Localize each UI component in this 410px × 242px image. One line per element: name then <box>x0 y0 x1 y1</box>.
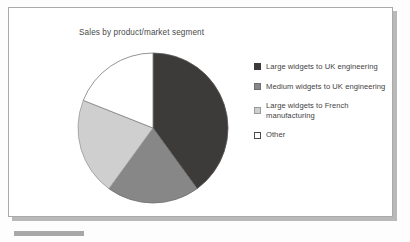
legend-item[interactable]: Other <box>254 130 394 140</box>
legend-swatch-other <box>254 132 261 139</box>
legend-swatch-medium-widgets-uk <box>254 83 261 90</box>
legend: Large widgets to UK engineering Medium w… <box>254 62 394 140</box>
scanned-page: Sales by product/market segment Large wi… <box>0 0 410 242</box>
legend-item-label: Other <box>266 130 285 140</box>
legend-swatch-large-widgets-uk <box>254 63 261 70</box>
legend-item-label: Medium widgets to UK engineering <box>266 82 385 92</box>
legend-item[interactable]: Medium widgets to UK engineering <box>254 82 394 92</box>
chart-frame: Sales by product/market segment Large wi… <box>8 7 393 217</box>
page-bottom-artifact-bar <box>14 231 84 236</box>
pie-chart-svg <box>77 52 229 204</box>
pie-chart <box>77 52 229 204</box>
legend-swatch-large-widgets-french <box>254 107 261 114</box>
legend-item-label: Large widgets to UK engineering <box>266 62 378 72</box>
legend-item[interactable]: Large widgets to French manufacturing <box>254 101 394 120</box>
legend-item-label: Large widgets to French manufacturing <box>266 101 394 120</box>
legend-item[interactable]: Large widgets to UK engineering <box>254 62 394 72</box>
chart-title: Sales by product/market segment <box>79 28 204 37</box>
